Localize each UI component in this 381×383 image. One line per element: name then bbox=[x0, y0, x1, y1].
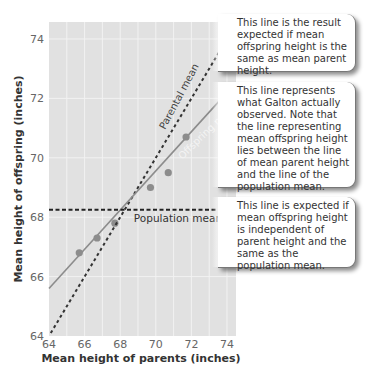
x-tick-label: 68 bbox=[113, 338, 127, 351]
x-tick-label: 66 bbox=[78, 338, 92, 351]
x-axis-label: Mean height of parents (inches) bbox=[41, 352, 240, 365]
x-axis-ticks: 646668707274 bbox=[42, 338, 234, 351]
y-tick-label: 68 bbox=[30, 211, 44, 224]
y-tick-label: 66 bbox=[30, 271, 44, 284]
y-axis-label: Mean height of offspring (inches) bbox=[12, 75, 25, 282]
y-tick-label: 70 bbox=[30, 152, 44, 165]
callout-offspring-mean: This line represents what Galton actuall… bbox=[218, 82, 356, 188]
x-tick-label: 72 bbox=[184, 338, 198, 351]
y-tick-label: 74 bbox=[30, 33, 44, 46]
callout-text: This line is expected if mean offspring … bbox=[237, 200, 349, 271]
x-tick-label: 64 bbox=[42, 338, 56, 351]
x-tick-label: 70 bbox=[149, 338, 163, 351]
y-tick-label: 72 bbox=[30, 92, 44, 105]
x-tick-label: 74 bbox=[220, 338, 234, 351]
callout-parental-mean: This line is the result expected if mean… bbox=[218, 14, 356, 72]
callout-population-mean: This line is expected if mean offspring … bbox=[218, 197, 356, 268]
population-mean-label: Population mean bbox=[134, 212, 222, 224]
y-axis-ticks: 646668707274 bbox=[30, 33, 44, 343]
callout-text: This line represents what Galton actuall… bbox=[237, 85, 349, 192]
data-point bbox=[147, 184, 154, 191]
callout-text: This line is the result expected if mean… bbox=[237, 17, 347, 76]
data-point bbox=[165, 169, 172, 176]
